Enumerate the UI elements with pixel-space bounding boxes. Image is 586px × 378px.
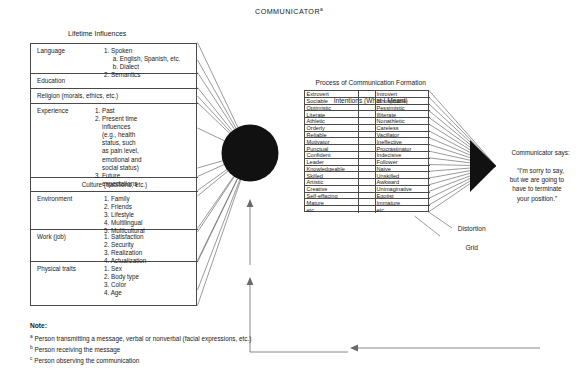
note-item-b: b Person receiving the message	[30, 345, 120, 353]
distortion-guide	[415, 216, 441, 236]
distortion-connector	[429, 110, 497, 166]
page-title-superscript: a	[320, 6, 323, 12]
trait-negative: Inhospitable	[377, 98, 407, 104]
trait-pair-row: SociableInhospitable	[305, 98, 430, 105]
trait-divider-right	[375, 206, 376, 213]
distortion-connector	[429, 131, 497, 166]
left-influence-fan	[198, 43, 241, 306]
influence-row-name: Education	[37, 77, 65, 84]
influence-row-name: Work (job)	[37, 233, 66, 240]
trait-negative: Unskilled	[377, 173, 400, 179]
influence-row: Religion (morals, ethics, etc.)	[31, 89, 198, 104]
trait-positive: Motivator	[307, 139, 330, 145]
distortion-connector	[429, 144, 497, 166]
influence-connector	[198, 177, 235, 232]
trait-pair-row: LiterateIlliterate	[305, 111, 430, 118]
trait-positive: Optimistic	[307, 105, 332, 111]
distortion-connector	[429, 97, 497, 166]
trait-negative: Unimaginative	[377, 186, 412, 192]
influence-row: Culture (traditions, etc.)	[31, 178, 198, 192]
distortion-connector	[429, 151, 497, 166]
distortion-grid-line1: Distortion	[458, 225, 486, 232]
communicator-node	[222, 125, 279, 182]
influence-row-name: Religion (morals, ethics, etc.)	[37, 92, 118, 99]
page-title-text: COMMUNICATOR	[255, 7, 320, 16]
influence-connector	[198, 88, 233, 131]
trait-pair-row: MotivatorIneffective	[305, 138, 430, 145]
trait-positive: Self-effacing	[307, 193, 338, 199]
trait-negative: etc.	[377, 207, 386, 213]
influence-row: Physical traits1. Sex 2. Body type 3. Co…	[31, 262, 198, 307]
influence-row: Experience1. Past 2. Present time influe…	[31, 104, 198, 178]
trait-negative: Illiterate	[377, 112, 397, 118]
communicator-says-quote-line: your position.”	[517, 195, 557, 202]
note-text-c: Person observing the communication	[32, 357, 139, 364]
influence-connector	[198, 161, 223, 168]
distortion-connector	[429, 166, 497, 171]
influence-row-name: Physical traits	[37, 265, 76, 272]
influence-connector	[198, 165, 224, 177]
trait-pair-row: etc.etc.	[305, 206, 430, 213]
trait-positive: Athletic	[307, 118, 325, 124]
trait-negative: Introvert	[377, 91, 398, 97]
trait-negative: Naive	[377, 166, 391, 172]
feedback-loop-lower	[247, 277, 540, 352]
influence-row-name: Environment	[37, 195, 72, 202]
note-text-b: Person receiving the message	[33, 346, 121, 353]
trait-positive: Extrovert	[307, 91, 329, 97]
trait-pair-row: OrderlyCareless	[305, 125, 430, 132]
influence-row-items: 1. Past 2. Present time influences (e.g.…	[95, 107, 142, 189]
note-item-a: a Person transmitting a message, verbal …	[30, 334, 251, 342]
distortion-connector	[429, 137, 497, 166]
trait-pair-row: ArtisticAwkward	[305, 179, 430, 186]
communicator-says-quote-line: have to terminate	[512, 185, 561, 192]
trait-negative: Ineffective	[377, 139, 402, 145]
note-item-c: c Person observing the communication	[30, 356, 139, 364]
influence-connector	[198, 73, 235, 130]
lifetime-influences-table: Language1. Spoken a. English, Spanish, e…	[30, 43, 197, 306]
trait-pair-row: OptimisticPessimistic	[305, 105, 430, 112]
note-heading: Note:	[30, 322, 47, 329]
trait-negative: Indecisive	[377, 152, 402, 158]
influence-connector	[198, 179, 238, 261]
trait-pair-row: ConfidentIndecisive	[305, 152, 430, 159]
influence-connector	[198, 170, 227, 191]
trait-positive: etc.	[307, 207, 316, 213]
influence-row-name: Experience	[37, 107, 69, 114]
influence-connector	[198, 180, 241, 306]
trait-pair-row: MatureImmature	[305, 199, 430, 206]
trait-positive: Punctual	[307, 146, 329, 152]
trait-positive: Confident	[307, 152, 331, 158]
distortion-grid-line2: Grid	[465, 244, 477, 251]
trait-positive: Literate	[307, 112, 326, 118]
influence-connector	[198, 180, 240, 290]
influence-row: Environment1. Family 2. Friends 3. Lifes…	[31, 192, 198, 230]
trait-negative: Nonathletic	[377, 118, 405, 124]
trait-pair-row: LeaderFollower	[305, 159, 430, 166]
trait-positive: Creative	[307, 186, 328, 192]
trait-positive: Orderly	[307, 125, 325, 131]
influence-row-items: 1. Satisfaction 2. Security 3. Realizati…	[104, 233, 146, 266]
influence-row-items: 1. Sex 2. Body type 3. Color 4. Age	[104, 265, 139, 298]
trait-positive: Sociable	[307, 98, 328, 104]
distortion-connector	[429, 166, 497, 185]
distortion-connector	[429, 166, 497, 192]
note-text-a: Person transmitting a message, verbal or…	[33, 335, 252, 342]
distortion-grid-label: Distortion Grid	[438, 215, 498, 261]
trait-pair-row: KnowledgeableNaive	[305, 166, 430, 173]
trait-positive: Mature	[307, 200, 324, 206]
influence-connector	[198, 96, 231, 132]
trait-negative: Procrastinator	[377, 146, 412, 152]
trait-pair-row: AthleticNonathletic	[305, 118, 430, 125]
influence-connector	[198, 179, 238, 262]
distortion-connector	[429, 124, 497, 166]
trait-pair-row: Self-effacingEgotist	[305, 193, 430, 200]
trait-negative: Awkward	[377, 179, 400, 185]
trait-negative: Pessimistic	[377, 105, 405, 111]
distortion-connector	[429, 166, 497, 212]
influence-row: Education	[31, 74, 198, 89]
receiver-arrowhead	[470, 140, 496, 192]
influence-row: Language1. Spoken a. English, Spanish, e…	[31, 44, 198, 74]
influence-connector	[198, 128, 225, 141]
influence-row: Work (job)1. Satisfaction 2. Security 3.…	[31, 230, 198, 262]
